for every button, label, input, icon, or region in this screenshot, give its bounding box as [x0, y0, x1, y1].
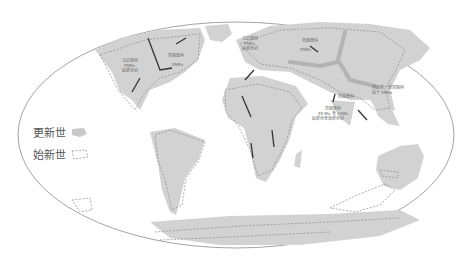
annotation-line: 奇蹄兽科 — [302, 37, 318, 43]
annotation-line: 始新世初 — [242, 45, 258, 51]
annotation-line: 奇蹄兽科 — [168, 52, 184, 58]
annotation-line: 始于 55Ma — [372, 89, 393, 95]
annotation-india: 奇蹄兽科 — [338, 93, 354, 99]
legend-label-eocene: 始新世 — [33, 148, 66, 162]
annotation-line: 奇蹄兽科 — [338, 93, 354, 99]
annotation-line: 始新世初 — [122, 67, 138, 73]
annotation-line: 55Ma — [172, 62, 184, 67]
annotation-line: 始新世至渐新世初 — [312, 115, 344, 121]
annotation-line: 55Ma — [300, 47, 312, 52]
legend-label-pleistocene: 更新世 — [33, 126, 66, 140]
world-map: 马齿兽科 55Ma 始新世初 奇蹄兽科 55Ma 马齿兽科 55Ma 始新世初 … — [0, 0, 472, 259]
